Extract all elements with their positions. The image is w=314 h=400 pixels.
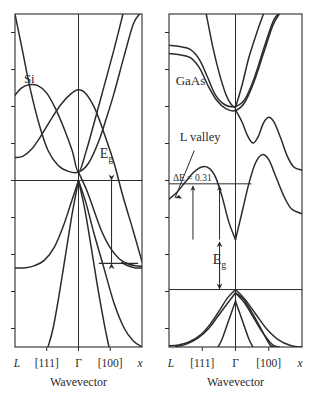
x-axis-title: Wavevector: [207, 375, 264, 389]
figure-svg: L[111]Γ[100]xWavevectorSiEgL[111]Γ[100]x…: [0, 0, 314, 400]
material-label-si: Si: [24, 71, 35, 86]
material-label-gaas: GaAs: [176, 73, 206, 88]
x-tick-label-x: x: [296, 357, 303, 369]
x-tick-label-100: [100]: [98, 357, 123, 369]
delta-e-label: ΔE = 0.31: [173, 173, 212, 183]
x-tick-label-111: [111]: [190, 357, 214, 369]
x-tick-label-L: L: [13, 357, 20, 369]
x-tick-label-Γ: Γ: [232, 357, 239, 369]
l-valley-label: L valley: [180, 130, 222, 144]
x-axis-title: Wavevector: [50, 375, 107, 389]
x-tick-label-Γ: Γ: [75, 357, 82, 369]
x-tick-label-111: [111]: [35, 357, 59, 369]
x-tick-label-100: [100]: [256, 357, 281, 369]
band-structure-figure: L[111]Γ[100]xWavevectorSiEgL[111]Γ[100]x…: [0, 0, 314, 400]
x-tick-label-L: L: [167, 357, 174, 369]
x-tick-label-x: x: [136, 357, 143, 369]
